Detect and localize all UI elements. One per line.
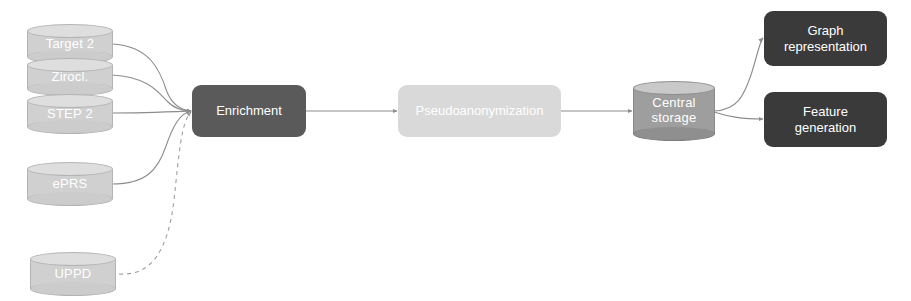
- storage-cylinder-central-storage[interactable]: Central storage: [633, 81, 715, 141]
- source-cylinder-zirocl[interactable]: Zirocl.: [27, 58, 113, 96]
- output-box-graph-representation[interactable]: Graph representation: [764, 11, 887, 66]
- edge-storage-feature-generation: [714, 112, 763, 119]
- edge-uppd-enrichment: [119, 112, 191, 274]
- source-cylinder-eprs[interactable]: ePRS: [27, 162, 113, 206]
- source-cylinder-uppd[interactable]: UPPD: [30, 252, 116, 296]
- source-label-step2: STEP 2: [27, 94, 113, 134]
- storage-label-central-storage: Central storage: [633, 81, 715, 141]
- process-box-enrichment[interactable]: Enrichment: [192, 85, 306, 137]
- source-label-zirocl: Zirocl.: [27, 58, 113, 96]
- edge-storage-graph-representation: [714, 38, 763, 111]
- pipeline-diagram: Target 2 Zirocl. STEP 2 ePRS UPPD Enrich…: [0, 0, 911, 301]
- edge-step2-enrichment: [112, 111, 191, 113]
- storage-label-line2: storage: [652, 111, 697, 126]
- source-label-eprs: ePRS: [27, 162, 113, 206]
- output-box-feature-generation[interactable]: Feature generation: [764, 92, 887, 147]
- process-label-enrichment: Enrichment: [216, 103, 282, 119]
- output-label-feature-line1: Feature: [803, 104, 848, 120]
- storage-label-line1: Central: [652, 96, 695, 111]
- edge-eprs-enrichment: [112, 111, 191, 184]
- source-label-uppd: UPPD: [30, 252, 116, 296]
- edge-zirocl-enrichment: [112, 75, 191, 111]
- edge-target2-enrichment: [112, 44, 191, 111]
- output-label-graph-line2: representation: [784, 39, 867, 55]
- output-label-feature-line2: generation: [795, 120, 856, 136]
- process-box-pseudoanonymization[interactable]: Pseudoanonymization: [398, 85, 561, 137]
- process-label-pseudoanonymization: Pseudoanonymization: [416, 103, 544, 119]
- output-label-graph-line1: Graph: [807, 23, 843, 39]
- source-cylinder-step2[interactable]: STEP 2: [27, 94, 113, 134]
